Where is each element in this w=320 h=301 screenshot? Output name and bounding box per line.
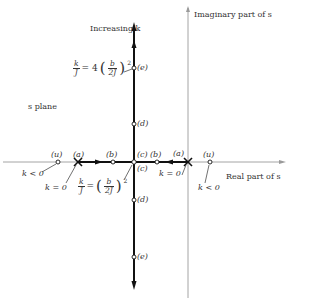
- point-u-left-icon: [56, 160, 60, 164]
- locus-arrow-left-icon: [165, 160, 173, 165]
- k-zero-right-label: k = 0: [159, 170, 181, 178]
- locus-arrow-down-icon: [132, 281, 137, 290]
- leader-k-neg-right: [205, 165, 209, 183]
- breakaway-eq-exponent: 2: [124, 177, 128, 184]
- upper-eq-rhs: b2J: [108, 60, 118, 76]
- breakaway-eq-equals: =: [87, 181, 95, 191]
- leader-k-zero-left: [66, 165, 76, 183]
- increasing-k-label: Increasing k: [90, 25, 140, 33]
- real-axis-arrow-icon: [279, 160, 286, 164]
- point-d-upper-icon: [132, 122, 136, 126]
- label-e-lower: (e): [137, 253, 148, 261]
- label-d-lower: (d): [137, 196, 148, 204]
- point-e-upper-icon: [132, 66, 136, 70]
- point-c-icon: [132, 160, 136, 164]
- label-b-left: (b): [106, 151, 117, 159]
- k-negative-left-label: k < 0: [22, 170, 44, 178]
- point-d-lower-icon: [132, 198, 136, 202]
- breakaway-eq-rhs: b2J: [104, 178, 114, 194]
- point-b-right-icon: [155, 160, 159, 164]
- leader-k-zero-right: [182, 165, 186, 175]
- upper-eq-lhs: kJ: [73, 60, 80, 76]
- label-b-right: (b): [150, 151, 161, 159]
- upper-eq-exponent: 2: [127, 59, 131, 66]
- label-u-left: (u): [51, 151, 62, 159]
- label-d-upper: (d): [137, 120, 148, 128]
- label-e-upper: (e): [137, 64, 148, 72]
- label-a-right: (a): [173, 150, 184, 158]
- locus-arrow-right-icon: [95, 160, 103, 165]
- leader-k-neg-left: [42, 164, 56, 172]
- breakaway-equation: kJ = (b2J)2: [78, 178, 127, 194]
- label-c-upper: (c): [137, 151, 148, 159]
- breakaway-eq-lhs: kJ: [78, 178, 85, 194]
- real-axis-label: Real part of s: [226, 173, 281, 181]
- point-u-right-icon: [208, 160, 212, 164]
- k-zero-left-label: k = 0: [45, 184, 67, 192]
- label-c-lower: (c): [137, 165, 148, 173]
- label-u-right: (u): [203, 151, 214, 159]
- k-negative-right-label: k < 0: [198, 184, 220, 192]
- imaginary-axis-label: Imaginary part of s: [194, 11, 272, 19]
- label-a-left: (a): [73, 151, 84, 159]
- imaginary-axis-arrow-icon: [186, 6, 190, 12]
- point-e-lower-icon: [132, 255, 136, 259]
- locus-arrow-up-mid-icon: [132, 40, 137, 48]
- upper-equation: kJ = 4 (b2J)2: [73, 60, 131, 76]
- s-plane-label: s plane: [28, 103, 57, 111]
- point-b-left-icon: [111, 160, 115, 164]
- upper-eq-equals: = 4: [82, 63, 98, 73]
